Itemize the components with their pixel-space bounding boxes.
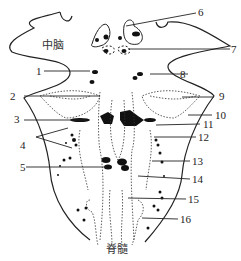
label-10: 10 [215,110,226,121]
label-13: 13 [192,156,203,167]
label-16: 16 [180,214,191,225]
label-8: 8 [180,69,186,80]
midbrain-label: 中脑 [42,40,64,52]
spinal-cord-label: 脊髓 [106,244,128,256]
label-14: 14 [192,174,203,185]
label-1: 1 [36,66,42,77]
label-15: 15 [188,194,199,205]
label-5: 5 [20,162,26,173]
label-4: 4 [20,140,26,151]
label-12: 12 [198,132,209,143]
label-7: 7 [231,44,237,55]
label-9: 9 [219,91,225,102]
label-11: 11 [203,119,214,130]
label-2: 2 [10,91,16,102]
label-3: 3 [14,114,20,125]
label-6: 6 [198,7,204,18]
